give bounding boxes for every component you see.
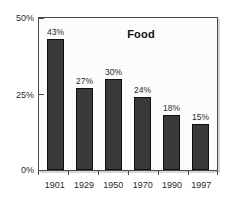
y-axis-tick-label-0: 0% xyxy=(0,166,34,175)
x-axis-tick-mark xyxy=(68,171,69,175)
x-axis-tick-label: 1997 xyxy=(187,180,216,190)
bar-slot: 30% xyxy=(99,18,128,170)
bar-value-label: 43% xyxy=(47,28,64,37)
bar-slot: 43% xyxy=(41,18,70,170)
bar xyxy=(47,39,64,170)
x-axis-tick-mark xyxy=(128,171,129,175)
x-axis-tick-label: 1929 xyxy=(69,180,98,190)
bar-chart: 50% 25% 0% Food 43% 27% 30% 24% xyxy=(0,0,226,200)
y-axis-tick-label-50: 50% xyxy=(0,14,34,23)
bar xyxy=(105,79,122,170)
bar-slot: 24% xyxy=(128,18,157,170)
y-axis-tick-label-25: 25% xyxy=(0,91,34,100)
bar-slot: 15% xyxy=(186,18,215,170)
bar-slot: 27% xyxy=(70,18,99,170)
bar xyxy=(163,115,180,170)
bar-value-label: 27% xyxy=(76,77,93,86)
bar-value-label: 18% xyxy=(163,104,180,113)
bar-slot: 18% xyxy=(157,18,186,170)
x-axis-labels: 1901 1929 1950 1970 1990 1997 xyxy=(38,180,218,190)
bar xyxy=(134,97,151,170)
plot-area: Food 43% 27% 30% 24% 18% xyxy=(38,17,218,171)
x-axis-tick-label: 1990 xyxy=(157,180,186,190)
bar-value-label: 30% xyxy=(105,68,122,77)
bar-value-label: 24% xyxy=(134,86,151,95)
bar xyxy=(76,88,93,170)
x-axis-tick-mark xyxy=(188,171,189,175)
bar-series: 43% 27% 30% 24% 18% 15% xyxy=(39,18,217,170)
x-axis-tick-mark xyxy=(38,171,39,175)
x-axis-tick-mark xyxy=(98,171,99,175)
x-axis-tick-label: 1950 xyxy=(99,180,128,190)
bar-value-label: 15% xyxy=(192,113,209,122)
bar xyxy=(192,124,209,170)
x-axis-tick-mark xyxy=(217,171,218,175)
x-axis-ticks xyxy=(38,171,218,176)
x-axis-tick-label: 1970 xyxy=(128,180,157,190)
x-axis-tick-mark xyxy=(158,171,159,175)
x-axis-tick-label: 1901 xyxy=(40,180,69,190)
